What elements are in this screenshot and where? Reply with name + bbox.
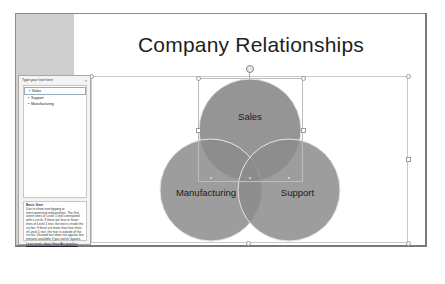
shape-handle-right[interactable] [301, 128, 306, 133]
shape-handle-top-left[interactable] [196, 76, 201, 81]
label-support[interactable]: Support [270, 187, 325, 198]
list-item-label[interactable]: Manufacturing [31, 102, 54, 106]
shape-selection-box[interactable] [198, 78, 303, 182]
label-manufacturing[interactable]: Manufacturing [166, 187, 246, 198]
list-item-label[interactable]: Support [31, 96, 44, 100]
shape-handle-left[interactable] [196, 128, 201, 133]
list-item[interactable]: • Sales [24, 87, 86, 95]
layout-help-box: Basic Venn Use to show overlapping or in… [23, 201, 87, 241]
smartart-text-pane: Type your text here × • Sales • Support … [18, 75, 91, 245]
text-pane-title: Type your text here [22, 78, 53, 82]
close-icon[interactable]: × [85, 78, 87, 83]
bullet-icon: • [28, 101, 29, 107]
rotate-handle-icon[interactable] [246, 65, 254, 73]
label-sales[interactable]: Sales [225, 111, 275, 122]
learn-more-link[interactable]: Learn more about SmartArt graphics [26, 243, 84, 247]
list-item-label[interactable]: Sales [32, 89, 41, 93]
bullet-icon: • [29, 88, 30, 94]
shape-handle-top-right[interactable] [301, 76, 306, 81]
text-pane-list[interactable]: • Sales • Support • Manufacturing [23, 85, 87, 198]
help-body: Use to show overlapping or interconnecte… [26, 208, 84, 242]
text-pane-header: Type your text here × [19, 76, 90, 85]
list-item[interactable]: • Manufacturing [24, 101, 86, 107]
